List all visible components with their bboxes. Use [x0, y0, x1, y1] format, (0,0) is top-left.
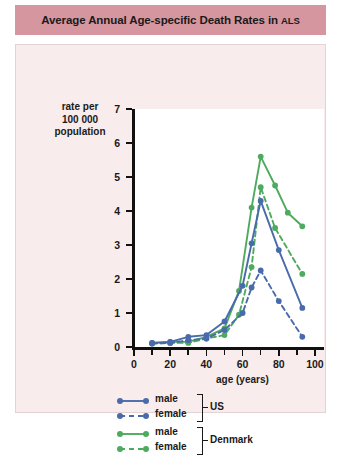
data-point-us-female-6 — [249, 285, 255, 291]
chart-panel: rate per 100 000 population 01234567 020… — [15, 44, 326, 413]
data-point-denmark-male-10 — [299, 223, 305, 229]
legend-swatch-icon — [116, 393, 150, 405]
data-point-us-female-3 — [204, 336, 210, 342]
title-main: Average Annual Age-specific Death Rates … — [41, 14, 278, 26]
legend-swatch-icon — [116, 408, 150, 420]
legend-item-us-female[interactable]: female — [116, 407, 187, 421]
legend-group-label-denmark: Denmark — [210, 434, 253, 445]
data-point-denmark-male-9 — [285, 210, 291, 216]
legend-item-denmark-female[interactable]: female — [116, 440, 187, 454]
data-point-denmark-female-6 — [249, 264, 255, 270]
data-point-us-female-0 — [149, 341, 155, 347]
legend-item-denmark-male[interactable]: male — [116, 425, 178, 439]
data-point-us-male-9 — [299, 305, 305, 311]
data-point-denmark-female-7 — [258, 184, 264, 190]
legend-label: male — [155, 426, 178, 438]
legend-swatch-icon — [116, 426, 150, 438]
data-point-us-female-5 — [240, 310, 246, 316]
data-series-layer — [16, 45, 327, 414]
data-point-us-male-7 — [258, 198, 264, 204]
data-point-denmark-male-7 — [258, 154, 264, 160]
legend-group-brace-stem — [202, 440, 208, 441]
legend-group-label-us: US — [210, 401, 224, 412]
data-point-us-male-4 — [222, 319, 228, 325]
data-point-us-female-4 — [222, 327, 228, 333]
legend-swatch-icon — [116, 441, 150, 453]
legend-group-brace-stem — [202, 407, 208, 408]
data-point-denmark-female-8 — [272, 225, 278, 231]
legend-label: male — [155, 393, 178, 405]
page-title: Average Annual Age-specific Death Rates … — [41, 14, 300, 26]
legend-item-us-male[interactable]: male — [116, 392, 178, 406]
data-point-us-female-2 — [185, 337, 191, 343]
title-acronym: ALS — [281, 15, 300, 26]
data-point-us-female-7 — [258, 268, 264, 274]
data-point-denmark-male-6 — [249, 205, 255, 211]
data-point-denmark-female-9 — [299, 271, 305, 277]
data-point-denmark-female-4 — [222, 332, 228, 338]
chart-legend: malefemalemalefemaleUSDenmark — [116, 392, 316, 454]
data-point-us-male-8 — [276, 247, 282, 253]
data-point-denmark-male-8 — [272, 183, 278, 189]
data-point-us-female-9 — [299, 334, 305, 340]
legend-label: female — [155, 441, 187, 453]
data-point-us-male-5 — [240, 283, 246, 289]
data-point-us-female-1 — [167, 340, 173, 346]
data-point-us-female-8 — [276, 298, 282, 304]
chart-title-banner: Average Annual Age-specific Death Rates … — [15, 5, 326, 35]
legend-label: female — [155, 408, 187, 420]
data-point-us-male-6 — [249, 240, 255, 246]
